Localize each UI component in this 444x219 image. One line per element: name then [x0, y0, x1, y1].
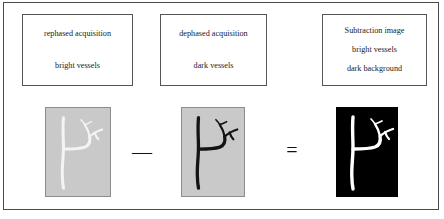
caption-line-subtraction-3: dark background	[347, 64, 402, 74]
caption-line-subtraction-2: bright vessels	[352, 45, 397, 55]
equals-operator: =	[272, 140, 312, 160]
panel-rephased-image	[45, 107, 111, 197]
caption-line-rephased-2: bright vessels	[55, 61, 100, 71]
caption-line-rephased-1: rephased acquisition	[44, 29, 111, 39]
minus-operator: —	[122, 142, 162, 162]
panel-dephased-image	[181, 107, 245, 197]
vessel-tree-bright-on-gray-icon	[46, 108, 110, 196]
vessel-tree-bright-on-black-icon	[336, 107, 398, 197]
caption-box-dephased: dephased acquisition dark vessels	[160, 14, 267, 86]
caption-line-dephased-1: dephased acquisition	[179, 29, 247, 39]
caption-box-subtraction: Subtraction image bright vessels dark ba…	[322, 14, 427, 86]
caption-line-subtraction-1: Subtraction image	[345, 26, 405, 36]
panel-subtraction-image	[336, 107, 398, 197]
caption-line-dephased-2: dark vessels	[194, 61, 234, 71]
subtraction-figure: rephased acquisition bright vessels deph…	[0, 0, 444, 219]
vessel-tree-dark-on-gray-icon	[182, 108, 244, 196]
caption-box-rephased: rephased acquisition bright vessels	[22, 14, 133, 86]
